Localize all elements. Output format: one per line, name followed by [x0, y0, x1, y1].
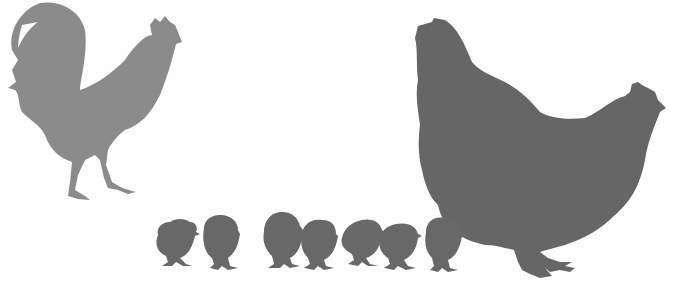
chick-1 [156, 219, 200, 266]
silhouettes [0, 0, 689, 298]
chick-6 [379, 223, 422, 270]
chick-7 [425, 218, 462, 272]
chick-5 [341, 219, 386, 266]
rooster-silhouette [8, 2, 182, 200]
chick-2 [203, 215, 240, 270]
chick-4 [301, 220, 338, 270]
chicken-family-image [0, 0, 689, 298]
chick-3 [263, 212, 303, 268]
